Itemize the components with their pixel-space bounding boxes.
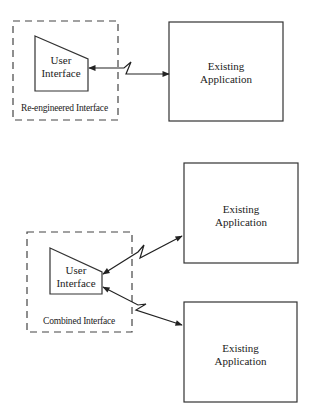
ui-label-line2: Interface bbox=[36, 67, 86, 80]
app-label-line1: Existing bbox=[184, 342, 297, 355]
existing-application-label-top: Existing Application bbox=[169, 60, 283, 86]
ui-label-line1: User bbox=[51, 264, 101, 277]
existing-application-label-middle: Existing Application bbox=[184, 203, 298, 229]
app-label-line1: Existing bbox=[184, 203, 298, 216]
ui-label-line1: User bbox=[36, 54, 86, 67]
app-label-line1: Existing bbox=[169, 60, 283, 73]
existing-application-label-bottom: Existing Application bbox=[184, 342, 297, 368]
app-label-line2: Application bbox=[169, 73, 283, 86]
connection-arrow-upper bbox=[103, 236, 182, 274]
ui-label-line2: Interface bbox=[51, 277, 101, 290]
reengineered-interface-caption: Re-engineered Interface bbox=[21, 103, 108, 113]
combined-interface-caption: Combined Interface bbox=[43, 316, 115, 326]
app-label-line2: Application bbox=[184, 216, 298, 229]
user-interface-label-top: User Interface bbox=[36, 54, 86, 80]
app-label-line2: Application bbox=[184, 355, 297, 368]
user-interface-label-bottom: User Interface bbox=[51, 264, 101, 290]
connection-arrow-top bbox=[89, 62, 169, 74]
